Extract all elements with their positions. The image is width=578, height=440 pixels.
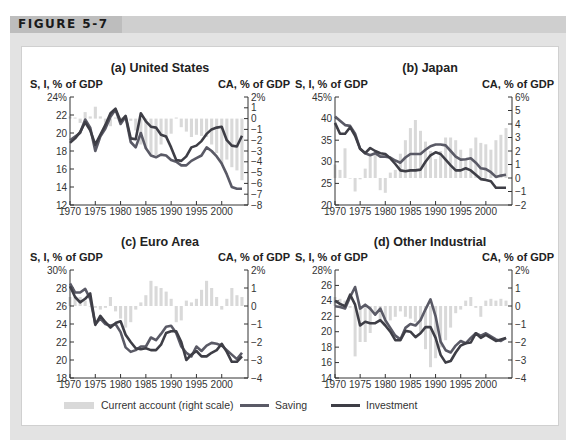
left-tick-label: 16 <box>321 357 333 368</box>
x-tick-label: 1975 <box>84 379 107 390</box>
left-tick-label: 20 <box>321 326 333 337</box>
x-tick-label: 1975 <box>349 379 372 390</box>
legend: Current account (right scale) Saving Inv… <box>0 399 578 419</box>
left-axis-label: S, I, % of GDP <box>295 251 368 263</box>
current-account-bar <box>484 144 487 178</box>
right-tick-label: 2 <box>515 146 521 157</box>
x-tick-label: 1970 <box>59 379 82 390</box>
current-account-bar <box>384 178 387 193</box>
chart-japan: (b) JapanS, I, % of GDPCA, % of GDP45%40… <box>295 61 554 217</box>
left-tick-label: 28% <box>312 265 332 276</box>
current-account-bar <box>155 286 158 306</box>
current-account-bar <box>459 306 462 310</box>
right-tick-label: 6% <box>515 92 530 103</box>
right-tick-label: −4 <box>251 156 263 167</box>
current-account-bar <box>200 119 203 136</box>
current-account-bar <box>99 116 102 118</box>
current-account-bar <box>414 306 417 322</box>
x-tick-label: 1980 <box>374 379 397 390</box>
chart-title: (c) Euro Area <box>121 235 200 249</box>
right-tick-label: −2 <box>515 200 527 211</box>
right-tick-label: 1 <box>515 283 521 294</box>
x-tick-label: 1985 <box>135 206 158 217</box>
current-account-bar <box>379 178 382 190</box>
chart-euro-area: (c) Euro AreaS, I, % of GDPCA, % of GDP3… <box>30 235 290 390</box>
chart-title: (d) Other Industrial <box>374 235 487 249</box>
current-account-bar <box>434 159 437 178</box>
current-account-bar <box>144 295 147 306</box>
current-account-bar <box>215 119 218 154</box>
current-account-bar <box>149 281 152 306</box>
current-account-bar <box>349 178 352 179</box>
left-tick-label: 24 <box>321 295 333 306</box>
right-tick-label: 0 <box>515 173 521 184</box>
current-account-bar <box>79 119 82 123</box>
current-account-bar <box>89 116 92 118</box>
current-account-bar <box>429 306 432 367</box>
chart-united-states: (a) United StatesS, I, % of GDPCA, % of … <box>30 61 290 217</box>
left-axis-label: S, I, % of GDP <box>30 78 103 90</box>
current-account-swatch <box>64 402 94 409</box>
left-tick-label: 28 <box>56 283 68 294</box>
current-account-bar <box>165 292 168 306</box>
current-account-bar <box>454 140 457 178</box>
current-account-bar <box>230 288 233 306</box>
current-account-bar <box>109 297 112 306</box>
left-axis-label: S, I, % of GDP <box>295 78 368 90</box>
current-account-bar <box>449 306 452 328</box>
x-tick-label: 1995 <box>185 379 208 390</box>
current-account-bar <box>195 299 198 306</box>
current-account-bar <box>180 119 183 128</box>
right-tick-label: −3 <box>251 146 263 157</box>
current-account-bar <box>104 306 107 308</box>
current-account-bar <box>479 306 482 317</box>
current-account-bar <box>175 118 178 119</box>
chart-other-industrial: (d) Other IndustrialS, I, % of GDPCA, % … <box>295 235 554 390</box>
left-tick-label: 26 <box>321 280 333 291</box>
right-tick-label: 5 <box>515 105 521 116</box>
current-account-bar <box>225 299 228 306</box>
left-tick-label: 24% <box>47 92 67 103</box>
current-account-bar <box>339 170 342 178</box>
current-account-bar <box>94 107 97 119</box>
current-account-bar <box>99 306 102 310</box>
current-account-bar <box>349 306 352 308</box>
x-tick-label: 1985 <box>135 379 158 390</box>
x-tick-label: 1970 <box>59 206 82 217</box>
x-tick-label: 1990 <box>160 206 183 217</box>
left-tick-label: 45% <box>312 92 332 103</box>
left-axis-label: S, I, % of GDP <box>30 251 103 263</box>
right-axis-label: CA, % of GDP <box>482 251 554 263</box>
current-account-bar <box>394 306 397 317</box>
legend-item-current-account: Current account (right scale) <box>64 399 233 411</box>
right-tick-label: −2 <box>251 135 263 146</box>
current-account-bar <box>494 301 497 306</box>
legend-item-investment: Investment <box>331 399 417 411</box>
right-tick-label: 0 <box>515 301 521 312</box>
current-account-bar <box>499 135 502 178</box>
current-account-bar <box>205 281 208 306</box>
investment-swatch <box>331 404 360 407</box>
x-tick-label: 1980 <box>374 206 397 217</box>
right-tick-label: −1 <box>251 124 263 135</box>
left-tick-label: 25 <box>321 178 333 189</box>
right-tick-label: −3 <box>251 355 263 366</box>
right-tick-label: 0 <box>251 113 257 124</box>
charts-svg: (a) United StatesS, I, % of GDPCA, % of … <box>0 0 578 440</box>
current-account-bar <box>354 178 357 192</box>
current-account-bar <box>394 170 397 178</box>
left-tick-label: 18 <box>56 146 68 157</box>
right-tick-label: 0 <box>251 301 257 312</box>
right-tick-label: −2 <box>515 337 527 348</box>
x-tick-label: 1990 <box>160 379 183 390</box>
current-account-bar <box>464 301 467 306</box>
left-tick-label: 24 <box>56 319 68 330</box>
current-account-bar <box>129 306 132 322</box>
current-account-bar <box>129 119 132 121</box>
current-account-bar <box>489 299 492 306</box>
current-account-bar <box>474 306 477 308</box>
right-tick-label: −3 <box>515 355 527 366</box>
current-account-bar <box>170 299 173 306</box>
current-account-bar <box>94 306 97 308</box>
current-account-bar <box>505 128 508 178</box>
